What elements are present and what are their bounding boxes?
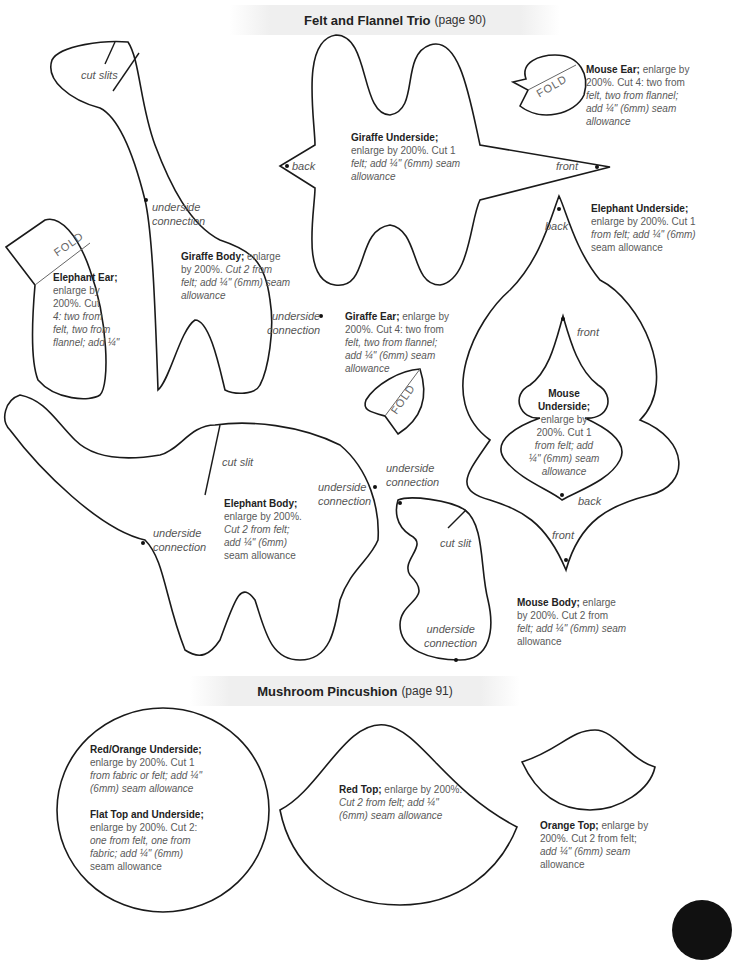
piece-name: Mouse Ear; <box>586 64 640 75</box>
piece-text: allowance <box>586 116 630 127</box>
label-giraffe-body: Giraffe Body; enlarge by 200%. Cut 2 fro… <box>181 250 290 302</box>
piece-name: Giraffe Underside; <box>351 132 438 143</box>
piece-text: seam allowance <box>591 242 663 253</box>
mark-word: connection <box>153 541 206 553</box>
piece-text: enlarge by 200%. Cut 2: <box>90 822 197 833</box>
piece-text: add ¼" (6mm) seam <box>540 846 630 857</box>
mark-underside-connection: undersideconnection <box>386 461 439 489</box>
piece-name: Elephant Ear; <box>53 272 117 283</box>
piece-name: Flat Top and Underside; <box>90 809 204 820</box>
mark-underside-connection: undersideconnection <box>318 480 371 508</box>
mark-underside-connection: undersideconnection <box>153 526 206 554</box>
piece-text: seam allowance <box>224 550 296 561</box>
label-mouse-underside: Mouse Underside; enlarge by 200%. Cut 1 … <box>510 387 618 478</box>
piece-name: Orange Top; <box>540 820 599 831</box>
piece-text: enlarge by <box>399 311 448 322</box>
label-red-orange-underside: Red/Orange Underside; enlarge by 200%. C… <box>90 743 202 795</box>
piece-text: enlarge by <box>541 414 588 425</box>
mark-word: underside <box>386 462 434 474</box>
piece-text: enlarge by <box>53 285 100 296</box>
piece-text: felt; add ¼" (6mm) seam <box>181 277 290 288</box>
mark-word: connection <box>424 637 477 649</box>
piece-text: seam allowance <box>90 861 162 872</box>
piece-text: (6mm) seam allowance <box>90 783 193 794</box>
piece-text: 4: two from <box>53 311 102 322</box>
label-orange-top: Orange Top; enlarge by 200%. Cut 2 from … <box>540 819 648 871</box>
piece-text: enlarge <box>580 597 616 608</box>
label-giraffe-ear: Giraffe Ear; enlarge by 200%. Cut 4: two… <box>345 310 449 375</box>
piece-text: felt; add ¼" (6mm) seam <box>351 158 460 169</box>
piece-text: enlarge by <box>640 64 689 75</box>
piece-text: allowance <box>540 859 584 870</box>
piece-name: Mouse Body; <box>517 597 580 608</box>
mark-underside-connection: undersideconnection <box>267 309 320 337</box>
piece-text: from felt; add ¼" (6mm) <box>591 229 696 240</box>
piece-text: enlarge by <box>599 820 648 831</box>
piece-text: 200%. Cut <box>53 298 100 309</box>
piece-name: Elephant Underside; <box>591 203 688 214</box>
piece-text: from fabric or felt; add ¼" <box>90 770 202 781</box>
piece-name: Mouse <box>548 388 580 399</box>
piece-text: add ¼" (6mm) seam <box>345 350 435 361</box>
mark-word: connection <box>152 215 205 227</box>
orange-top-outline <box>522 730 655 810</box>
piece-text: allowance <box>517 636 561 647</box>
piece-text: Cut 2 from felt; add ¼" <box>339 797 439 808</box>
piece-text: from felt; add <box>535 440 593 451</box>
piece-name: Giraffe Body; <box>181 251 244 262</box>
piece-text: 200%. Cut 1 <box>536 427 591 438</box>
label-mouse-ear: Mouse Ear; enlarge by 200%. Cut 4: two f… <box>586 63 689 128</box>
piece-text: (6mm) seam allowance <box>339 810 442 821</box>
mark-front: front <box>577 325 599 339</box>
piece-text: 200%. Cut 4: two from <box>345 324 444 335</box>
piece-name: Giraffe Ear; <box>345 311 399 322</box>
piece-text: one from felt, one from <box>90 835 191 846</box>
label-red-top: Red Top; enlarge by 200%. Cut 2 from fel… <box>339 783 462 822</box>
piece-text: Cut 2 from felt; <box>224 524 290 535</box>
piece-text: flannel; add ¼" <box>53 337 119 348</box>
mark-word: underside <box>153 527 201 539</box>
label-elephant-underside: Elephant Underside; enlarge by 200%. Cut… <box>591 202 696 254</box>
piece-text: add ¼" (6mm) seam <box>586 103 676 114</box>
mark-back: back <box>578 494 601 508</box>
page-corner-tab <box>672 900 732 960</box>
mark-word: connection <box>267 324 320 336</box>
mark-word: underside <box>318 481 366 493</box>
piece-text: felt; add ¼" (6mm) seam <box>517 623 626 634</box>
mark-cut-slit: cut slit <box>440 536 471 550</box>
piece-text: Cut 2 from <box>225 264 272 275</box>
mark-word: connection <box>386 476 439 488</box>
piece-text: enlarge by 200%. <box>382 784 463 795</box>
mark-cut-slits: cut slits <box>81 68 118 82</box>
piece-text: by 200%. <box>181 264 225 275</box>
piece-text: enlarge <box>244 251 280 262</box>
mark-underside-connection: undersideconnection <box>424 622 477 650</box>
piece-text: allowance <box>542 466 586 477</box>
mark-back: back <box>292 159 315 173</box>
piece-name: Red Top; <box>339 784 382 795</box>
piece-text: felt, two from flannel; <box>345 337 437 348</box>
mark-word: underside <box>426 623 474 635</box>
mark-cut-slit: cut slit <box>222 455 253 469</box>
piece-text: felt, two from flannel; <box>586 90 678 101</box>
piece-text: enlarge by 200%. <box>224 511 302 522</box>
label-flat-top-underside: Flat Top and Underside; enlarge by 200%.… <box>90 808 204 873</box>
piece-name: Red/Orange Underside; <box>90 744 202 755</box>
mark-back: back <box>545 219 568 233</box>
mark-word: underside <box>272 310 320 322</box>
piece-text: ¼" (6mm) seam <box>529 453 600 464</box>
label-mouse-body: Mouse Body; enlarge by 200%. Cut 2 from … <box>517 596 626 648</box>
piece-text: felt, two from <box>53 324 110 335</box>
mark-front: front <box>556 159 578 173</box>
piece-text: allowance <box>345 363 389 374</box>
piece-text: allowance <box>181 290 225 301</box>
piece-text: by 200%. Cut 2 from <box>517 610 608 621</box>
label-giraffe-underside: Giraffe Underside; enlarge by 200%. Cut … <box>351 131 460 183</box>
mark-underside-connection: undersideconnection <box>152 200 205 228</box>
mark-front: front <box>552 528 574 542</box>
piece-name: Underside; <box>538 401 590 412</box>
piece-text: enlarge by 200%. Cut 1 <box>90 757 195 768</box>
piece-text: enlarge by 200%. Cut 1 <box>351 145 456 156</box>
piece-text: fabric; add ¼" (6mm) <box>90 848 183 859</box>
piece-text: allowance <box>351 171 395 182</box>
